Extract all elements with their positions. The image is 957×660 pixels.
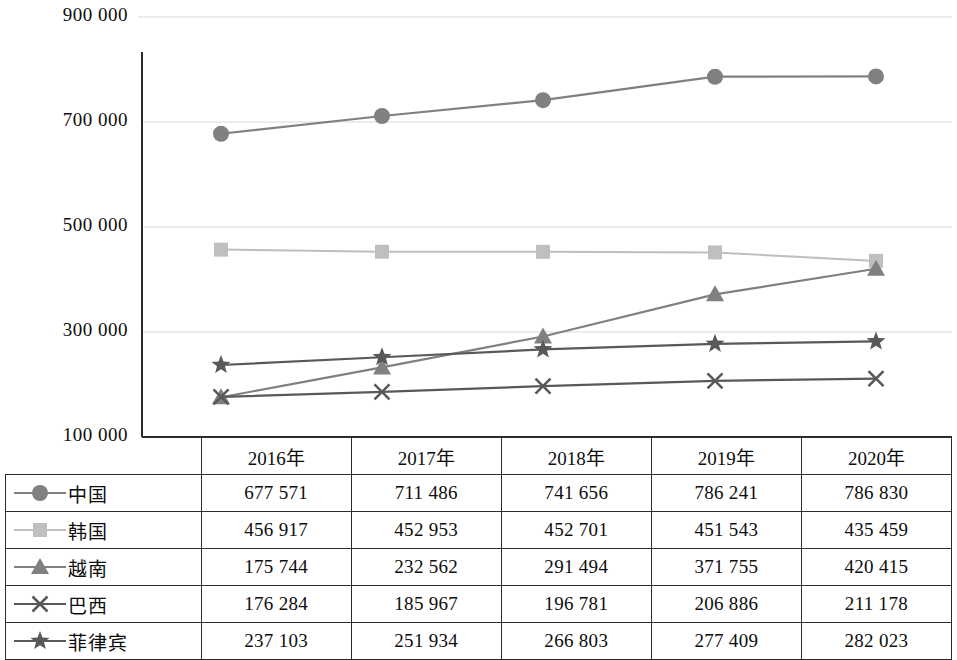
table-cell: 786 830 xyxy=(801,475,951,512)
star-icon xyxy=(12,630,68,652)
series-layer xyxy=(211,68,885,404)
table-cell: 175 744 xyxy=(201,549,351,586)
star-marker xyxy=(705,334,724,352)
table-header-row: 2016年 2017年 2018年 2019年 2020年 xyxy=(6,438,952,475)
circle-marker xyxy=(32,485,48,501)
legend-item: 菲律宾 xyxy=(8,628,201,655)
legend-label: 中国 xyxy=(68,480,108,507)
table-cell: 196 781 xyxy=(501,586,651,623)
series-0 xyxy=(213,68,884,141)
table-cell: 291 494 xyxy=(501,549,651,586)
chart-canvas xyxy=(0,0,957,440)
column-header-2020: 2020年 xyxy=(801,438,951,475)
table-head: 2016年 2017年 2018年 2019年 2020年 xyxy=(6,438,952,475)
legend-cell-越南[interactable]: 越南 xyxy=(6,549,202,586)
table-row: 韩国456 917452 953452 701451 543435 459 xyxy=(6,512,952,549)
legend-item: 韩国 xyxy=(8,517,201,544)
table-cell: 206 886 xyxy=(651,586,801,623)
legend-cell-中国[interactable]: 中国 xyxy=(6,475,202,512)
legend-cell-巴西[interactable]: 巴西 xyxy=(6,586,202,623)
table-cell: 277 409 xyxy=(651,623,801,660)
table-cell: 452 701 xyxy=(501,512,651,549)
square-marker xyxy=(708,245,722,259)
circle-marker xyxy=(535,92,551,108)
y-tick-label-500000: 500 000 xyxy=(8,214,128,236)
legend-cell-韩国[interactable]: 韩国 xyxy=(6,512,202,549)
table-body: 中国677 571711 486741 656786 241786 830韩国4… xyxy=(6,475,952,660)
star-marker xyxy=(211,355,230,373)
circle-marker xyxy=(374,108,390,124)
table-cell: 185 967 xyxy=(351,586,501,623)
data-table: 2016年 2017年 2018年 2019年 2020年 中国677 5717… xyxy=(5,437,952,660)
line-chart: 900 000700 000500 000300 000100 000 xyxy=(0,0,957,440)
table-cell: 435 459 xyxy=(801,512,951,549)
table-cell: 456 917 xyxy=(201,512,351,549)
circle-marker xyxy=(707,69,723,85)
table-cell: 266 803 xyxy=(501,623,651,660)
y-tick-label-900000: 900 000 xyxy=(8,4,128,26)
star-marker xyxy=(866,331,885,349)
legend-label: 越南 xyxy=(68,554,108,581)
square-marker xyxy=(33,523,47,537)
series-line xyxy=(221,341,876,365)
series-line xyxy=(221,269,876,397)
legend-symbol xyxy=(12,482,68,504)
legend-symbol xyxy=(12,556,68,578)
legend-symbol xyxy=(12,519,68,541)
legend-symbol xyxy=(12,593,68,615)
column-header-2016: 2016年 xyxy=(201,438,351,475)
square-icon xyxy=(12,519,68,541)
legend-item: 越南 xyxy=(8,554,201,581)
circle-marker xyxy=(868,68,884,84)
square-marker xyxy=(536,245,550,259)
table-cell: 211 178 xyxy=(801,586,951,623)
table-row: 越南175 744232 562291 494371 755420 415 xyxy=(6,549,952,586)
column-header-2018: 2018年 xyxy=(501,438,651,475)
star-marker xyxy=(30,631,49,649)
chart-figure: 900 000700 000500 000300 000100 000 2016… xyxy=(0,0,957,660)
table-cell: 371 755 xyxy=(651,549,801,586)
y-tick-label-300000: 300 000 xyxy=(8,319,128,341)
square-marker xyxy=(375,245,389,259)
series-3 xyxy=(214,371,884,404)
legend-cell-菲律宾[interactable]: 菲律宾 xyxy=(6,623,202,660)
table-row: 巴西176 284185 967196 781206 886211 178 xyxy=(6,586,952,623)
table-cell: 282 023 xyxy=(801,623,951,660)
table-cell: 786 241 xyxy=(651,475,801,512)
table-cell: 232 562 xyxy=(351,549,501,586)
circle-icon xyxy=(12,482,68,504)
square-marker xyxy=(214,243,228,257)
table-cell: 251 934 xyxy=(351,623,501,660)
series-1 xyxy=(214,243,883,268)
table-cell: 176 284 xyxy=(201,586,351,623)
legend-symbol xyxy=(12,630,68,652)
legend-corner-cell xyxy=(6,438,202,475)
table-cell: 741 656 xyxy=(501,475,651,512)
table-cell: 452 953 xyxy=(351,512,501,549)
table-cell: 677 571 xyxy=(201,475,351,512)
legend-item: 中国 xyxy=(8,480,201,507)
table-cell: 420 415 xyxy=(801,549,951,586)
gridlines xyxy=(138,17,952,332)
triangle-icon xyxy=(12,556,68,578)
table-cell: 237 103 xyxy=(201,623,351,660)
table-cell: 451 543 xyxy=(651,512,801,549)
legend-label: 巴西 xyxy=(68,591,108,618)
cross-icon xyxy=(12,593,68,615)
table-row: 中国677 571711 486741 656786 241786 830 xyxy=(6,475,952,512)
y-tick-label-700000: 700 000 xyxy=(8,109,128,131)
column-header-2017: 2017年 xyxy=(351,438,501,475)
table-cell: 711 486 xyxy=(351,475,501,512)
legend-label: 菲律宾 xyxy=(68,628,128,655)
legend-label: 韩国 xyxy=(68,517,108,544)
table-row: 菲律宾237 103251 934266 803277 409282 023 xyxy=(6,623,952,660)
circle-marker xyxy=(213,126,229,142)
column-header-2019: 2019年 xyxy=(651,438,801,475)
legend-item: 巴西 xyxy=(8,591,201,618)
